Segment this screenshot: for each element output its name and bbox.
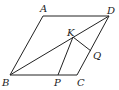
geometry-diagram: A D K Q B P C — [0, 0, 119, 90]
segment-kp — [58, 37, 73, 75]
label-q: Q — [93, 50, 101, 61]
label-k: K — [66, 27, 75, 38]
segment-kq — [73, 37, 91, 51]
label-d: D — [106, 5, 115, 16]
segment-ab — [10, 16, 43, 75]
label-p: P — [53, 77, 61, 88]
label-c: C — [77, 77, 85, 88]
label-a: A — [39, 3, 47, 14]
segment-dc — [77, 16, 109, 75]
label-b: B — [1, 77, 9, 88]
segment-bd — [10, 16, 109, 75]
